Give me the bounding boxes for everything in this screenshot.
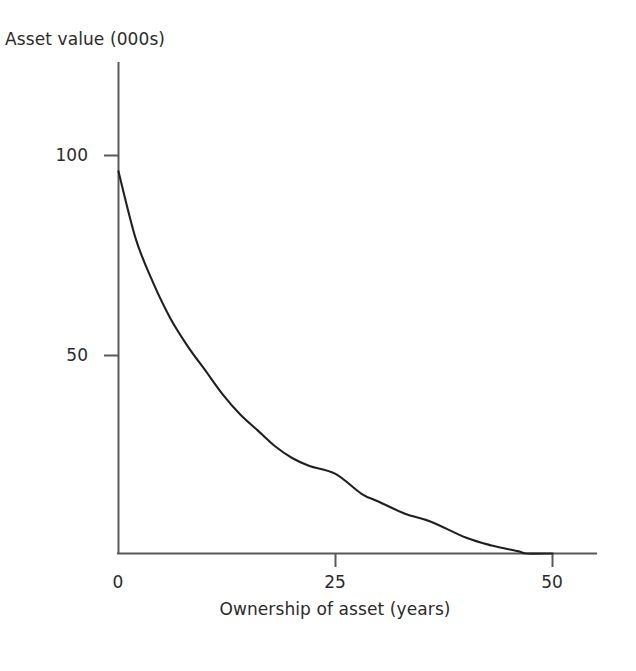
asset-value-curve (119, 171, 553, 553)
x-tick-label-50: 50 (522, 572, 582, 592)
asset-depreciation-chart: Asset value (000s) 100 50 0 25 50 Owners… (0, 0, 636, 671)
y-tick-label-100: 100 (28, 145, 88, 165)
plot-area (0, 0, 636, 671)
y-tick-label-50: 50 (28, 345, 88, 365)
y-axis-title: Asset value (000s) (5, 28, 165, 50)
axes (117, 62, 597, 554)
tick-marks (104, 156, 553, 568)
x-axis-title: Ownership of asset (years) (118, 598, 552, 620)
x-tick-label-0: 0 (88, 572, 148, 592)
x-tick-label-25: 25 (305, 572, 365, 592)
